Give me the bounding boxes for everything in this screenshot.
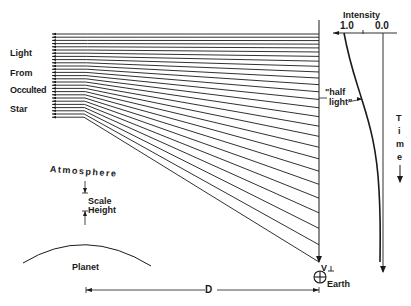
label-time-i: i [398, 126, 401, 136]
label-time-m: m [396, 139, 404, 149]
label-half-light-1: "half [325, 87, 345, 97]
label-distance: D [205, 285, 212, 295]
label-from: From [10, 68, 33, 78]
label-time-e: e [397, 152, 402, 162]
light-rays [52, 34, 319, 262]
intensity-axis-arrow-icon [333, 31, 339, 35]
label-intensity: Intensity [343, 10, 380, 20]
label-planet: Planet [72, 262, 99, 272]
perpendicular-icon [328, 266, 334, 271]
label-time-t: T [396, 113, 402, 123]
tick-label-1-0: 1.0 [340, 21, 354, 31]
ray-arrowheads [52, 33, 56, 119]
distance-dimension [86, 287, 319, 293]
label-earth: Earth [327, 279, 350, 289]
label-light: Light [10, 48, 32, 58]
label-occulted: Occulted [10, 85, 46, 95]
observer-track-arrow-icon [316, 256, 322, 263]
time-arrow-icon [397, 176, 403, 183]
label-v-perp: V [321, 263, 327, 273]
label-half-light-2: light" [329, 97, 352, 107]
label-star: Star [10, 104, 28, 114]
label-height: Height [88, 205, 116, 215]
distance-left-arrow-icon [86, 288, 92, 292]
distance-right-arrow-icon [313, 288, 319, 292]
scale-height-down-arrow-icon [83, 188, 87, 193]
light-curve [344, 33, 380, 262]
scale-height-up-arrow-icon [83, 211, 87, 216]
occultation-diagram [0, 0, 411, 306]
zero-line-arrow-icon [380, 266, 386, 273]
tick-label-0-0: 0.0 [375, 21, 389, 31]
